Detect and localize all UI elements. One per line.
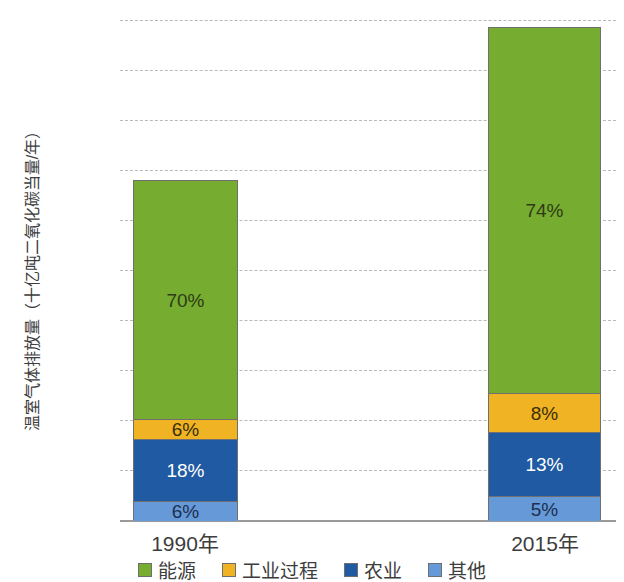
segment-percent-label: 5% (531, 500, 558, 519)
segment-percent-label: 8% (531, 404, 558, 423)
plot-area: 05101520253035404550 70%6%18%6%74%8%13%5… (120, 20, 616, 520)
bar-segment-农业[interactable]: 13% (489, 432, 600, 496)
gridline (120, 20, 616, 21)
bar-segment-工业过程[interactable]: 6% (134, 419, 237, 439)
segment-percent-label: 6% (172, 502, 199, 521)
legend-swatch-icon (428, 563, 442, 577)
legend-label: 其他 (448, 556, 486, 582)
segment-percent-label: 70% (166, 291, 204, 310)
stacked-bar-chart: 温室气体排放量（十亿吨二氧化碳当量/年） 0510152025303540455… (0, 0, 624, 582)
legend-swatch-icon (138, 563, 152, 577)
bar-segment-能源[interactable]: 74% (489, 28, 600, 393)
bar-segment-其他[interactable]: 6% (134, 501, 237, 521)
bar-1990年[interactable]: 70%6%18%6% (133, 180, 238, 520)
legend-label: 农业 (364, 556, 402, 582)
segment-percent-label: 13% (525, 455, 563, 474)
chart-legend: 能源工业过程农业其他 (0, 556, 624, 582)
bar-segment-农业[interactable]: 18% (134, 439, 237, 500)
bar-2015年[interactable]: 74%8%13%5% (488, 27, 601, 520)
legend-swatch-icon (222, 563, 236, 577)
legend-item-农业[interactable]: 农业 (344, 556, 402, 582)
y-axis-title: 温室气体排放量（十亿吨二氧化碳当量/年） (19, 27, 43, 527)
legend-item-其他[interactable]: 其他 (428, 556, 486, 582)
segment-percent-label: 6% (172, 420, 199, 439)
x-axis-label-2015年: 2015年 (485, 527, 605, 557)
legend-label: 能源 (158, 556, 196, 582)
bar-segment-工业过程[interactable]: 8% (489, 393, 600, 432)
segment-percent-label: 74% (525, 201, 563, 220)
x-axis-label-1990年: 1990年 (125, 527, 245, 557)
bar-segment-能源[interactable]: 70% (134, 181, 237, 419)
legend-label: 工业过程 (242, 556, 318, 582)
segment-percent-label: 18% (166, 461, 204, 480)
legend-item-能源[interactable]: 能源 (138, 556, 196, 582)
bar-segment-其他[interactable]: 5% (489, 496, 600, 521)
legend-swatch-icon (344, 563, 358, 577)
legend-item-工业过程[interactable]: 工业过程 (222, 556, 318, 582)
